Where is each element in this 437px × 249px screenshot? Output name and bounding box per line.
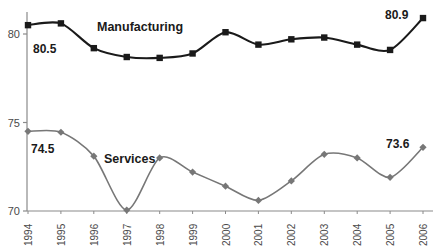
manufacturing-marker-2003: [321, 34, 327, 40]
services-series-label: Services: [104, 152, 155, 166]
x-axis-label-2003: 2003: [319, 223, 330, 246]
x-axis-label-1996: 1996: [89, 223, 100, 246]
manufacturing-marker-2004: [354, 41, 360, 47]
manufacturing-marker-1999: [189, 50, 195, 56]
manufacturing-marker-2005: [387, 47, 393, 53]
x-axis-label-1994: 1994: [23, 223, 34, 246]
x-axis-label-1995: 1995: [56, 223, 67, 246]
y-axis-label-70: 70: [8, 205, 20, 217]
y-axis-label-75: 75: [8, 117, 20, 129]
manufacturing-marker-2006: [420, 15, 426, 21]
manufacturing-series-label: Manufacturing: [97, 20, 183, 34]
manufacturing-marker-1997: [124, 54, 130, 60]
manufacturing-marker-1996: [91, 45, 97, 51]
x-axis-label-2004: 2004: [352, 223, 363, 246]
y-axis-label-80: 80: [8, 28, 20, 40]
services-start-value-label: 74.5: [31, 142, 55, 156]
chart-background: [0, 0, 437, 249]
x-axis-label-2000: 2000: [221, 223, 232, 246]
manufacturing-marker-2001: [255, 41, 261, 47]
manufacturing-marker-2000: [222, 29, 228, 35]
manufacturing-start-value-label: 80.5: [33, 42, 57, 56]
manufacturing-marker-1998: [156, 55, 162, 61]
manufacturing-marker-1994: [25, 22, 31, 28]
x-axis-label-1998: 1998: [155, 223, 166, 246]
x-axis-label-1999: 1999: [188, 223, 199, 246]
x-axis-label-2006: 2006: [418, 223, 429, 246]
x-axis-label-2002: 2002: [286, 223, 297, 246]
x-axis-label-1997: 1997: [122, 223, 133, 246]
manufacturing-marker-1995: [58, 20, 64, 26]
manufacturing-marker-2002: [288, 36, 294, 42]
x-axis-label-2001: 2001: [253, 223, 264, 246]
line-chart: 80 75 70 1994 1995 1996 1997 1998: [0, 0, 437, 249]
manufacturing-end-value-label: 80.9: [385, 8, 409, 22]
services-end-value-label: 73.6: [386, 137, 410, 151]
x-axis-label-2005: 2005: [385, 223, 396, 246]
